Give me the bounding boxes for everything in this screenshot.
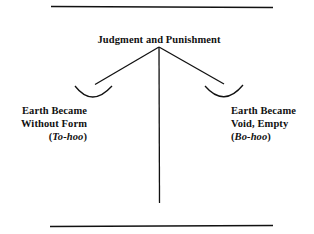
left-scale-pan — [75, 86, 112, 97]
diagram-title: Judgment and Punishment — [2, 33, 314, 46]
left-pan-hebrew: To-hoo — [52, 131, 83, 142]
right-pan-hebrew-term: (Bo-hoo) — [231, 130, 296, 143]
paren-close: ) — [267, 131, 271, 142]
right-pan-line1: Earth Became — [231, 104, 296, 117]
right-pan-label: Earth Became Void, Empty (Bo-hoo) — [231, 104, 296, 143]
right-scale-pan — [205, 85, 243, 97]
right-pan-line2: Void, Empty — [231, 117, 296, 130]
paren-close: ) — [83, 131, 87, 142]
scale-beam-left — [95, 47, 159, 85]
left-pan-line2: Without Form — [21, 117, 87, 130]
left-pan-line1: Earth Became — [21, 104, 87, 117]
left-pan-label: Earth Became Without Form (To-hoo) — [21, 104, 87, 143]
top-rule — [51, 7, 273, 8]
right-pan-hebrew: Bo-hoo — [235, 131, 268, 142]
scale-pillar — [159, 47, 160, 203]
left-pan-hebrew-term: (To-hoo) — [21, 130, 87, 143]
bottom-rule — [50, 226, 273, 227]
scale-beam-right — [159, 47, 224, 84]
